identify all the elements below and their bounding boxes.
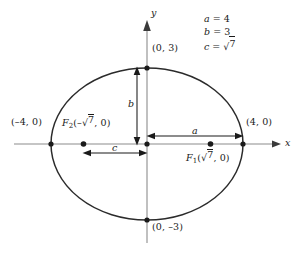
vertex-point-right: [240, 141, 245, 146]
focus-label-f1: F1(√7, 0): [186, 152, 230, 165]
vertex-label-bottom: (0, –3): [152, 222, 183, 233]
focus-f2-symbol: F: [62, 117, 69, 128]
parameter-legend: a = 4 b = 3 c = √7: [204, 12, 235, 53]
focus-f2-close: , 0): [94, 117, 110, 128]
focus-point-f1: [208, 141, 214, 147]
y-axis: [143, 20, 151, 243]
y-axis-label: y: [151, 8, 156, 19]
legend-row-c: c = √7: [204, 39, 235, 53]
dimension-arrow-c-head-right: [139, 150, 148, 157]
focus-f2-radicand: 7: [88, 114, 94, 126]
focus-f1-close: , 0): [213, 152, 229, 163]
legend-c-symbol: c: [204, 41, 209, 52]
y-axis-arrowhead: [143, 20, 151, 31]
vertex-point-top: [144, 65, 149, 70]
focus-point-f2: [81, 141, 87, 147]
x-axis-label: x: [285, 138, 290, 149]
vertex-point-left: [48, 141, 53, 146]
dimension-arrow-b: [134, 67, 141, 146]
ellipse-figure: x y a = 4 b = 3 c = √7 (0, 3) (0, –3) (–…: [0, 0, 301, 254]
legend-b-symbol: b: [204, 26, 210, 37]
focus-label-f2: F2(–√7, 0): [62, 117, 110, 130]
x-axis-arrowhead: [272, 140, 281, 147]
focus-f1-symbol: F: [186, 152, 193, 163]
legend-row-a: a = 4: [204, 12, 235, 25]
focus-f2-open: (–: [73, 117, 82, 128]
center-point: [144, 141, 149, 146]
dimension-arrow-c-head-left: [83, 150, 92, 157]
focus-f2-radical-group: √7: [82, 117, 94, 129]
legend-c-radicand: 7: [229, 36, 235, 50]
legend-a-equals: =: [213, 13, 221, 24]
dimension-label-a: a: [192, 125, 198, 136]
vertex-label-right: (4, 0): [246, 117, 272, 128]
vertex-label-left: (–4, 0): [11, 117, 42, 128]
legend-c-equals: =: [212, 41, 220, 52]
dimension-label-b: b: [128, 98, 134, 109]
dimension-label-c: c: [112, 142, 117, 153]
focus-f1-radicand: 7: [207, 149, 213, 161]
vertex-label-top: (0, 3): [152, 43, 178, 54]
dimension-arrow-a-head-left: [147, 133, 156, 140]
legend-a-value: 4: [224, 13, 230, 24]
focus-f1-radical-group: √7: [201, 152, 213, 164]
vertex-point-bottom: [144, 217, 149, 222]
legend-a-symbol: a: [204, 13, 210, 24]
legend-c-radical-group: √7: [223, 39, 235, 53]
legend-b-equals: =: [213, 26, 221, 37]
